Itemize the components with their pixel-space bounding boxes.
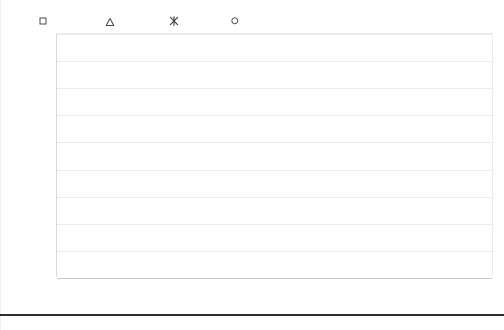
circle-marker-icon <box>228 15 241 28</box>
square-marker-icon <box>36 15 49 28</box>
triangle-marker-icon <box>103 15 116 28</box>
legend-item-ma-csma-be2 <box>228 13 248 29</box>
y-axis-tick-labels <box>0 33 56 277</box>
legend-item-csma-be2 <box>103 13 123 29</box>
plot-area <box>56 33 493 277</box>
trendlines <box>57 34 492 277</box>
x-axis-tick-labels <box>56 279 493 295</box>
legend-item-csma-be3 <box>36 13 56 29</box>
chart-figure <box>0 0 504 330</box>
star-marker-icon <box>167 15 180 28</box>
footer-rule <box>0 314 504 316</box>
chart-legend <box>0 13 504 29</box>
legend-item-ma-csma-be3 <box>167 13 187 29</box>
